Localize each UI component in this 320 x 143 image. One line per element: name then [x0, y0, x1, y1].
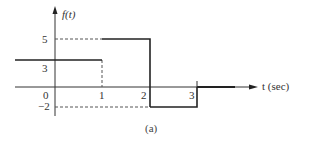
x-tick-2: 2	[141, 90, 147, 101]
x-axis-label: t (sec)	[262, 81, 289, 92]
figure-caption: (a)	[145, 122, 157, 134]
y-tick-5: 5	[42, 34, 48, 45]
y-axis-label: f(t)	[62, 9, 75, 20]
y-axis-arrow-icon	[53, 6, 58, 14]
x-tick-3: 3	[189, 90, 195, 101]
x-tick-1: 1	[99, 90, 105, 101]
t-axis-arrow-icon	[249, 85, 258, 90]
y-tick-3: 3	[42, 63, 48, 74]
y-tick-neg2: −2	[38, 101, 50, 112]
